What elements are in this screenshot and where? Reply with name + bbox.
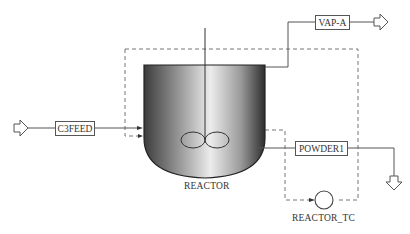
vap-a-text: VAP-A — [319, 18, 347, 28]
stream-label-powder1[interactable]: POWDER1 — [295, 141, 348, 156]
controller-label: REACTOR_TC — [292, 213, 355, 223]
temperature-controller-icon[interactable] — [309, 191, 333, 209]
c3feed-text: C3FEED — [58, 124, 93, 134]
feed-inlet-arrow-icon — [14, 120, 28, 136]
vapor-outlet-arrow-icon — [374, 14, 388, 30]
stream-label-c3feed[interactable]: C3FEED — [55, 121, 95, 136]
reactor-label: REACTOR — [184, 181, 230, 191]
flowsheet-canvas — [0, 0, 410, 234]
powder1-text: POWDER1 — [299, 144, 344, 154]
stream-label-vap-a[interactable]: VAP-A — [315, 15, 350, 30]
product-outlet-arrow-icon — [386, 176, 402, 190]
